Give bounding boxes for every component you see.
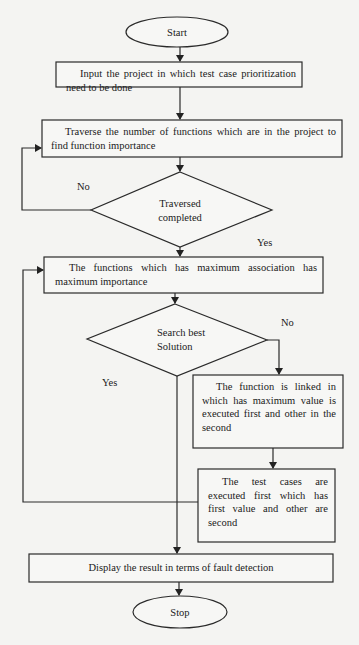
flowchart-lines xyxy=(0,0,359,645)
decision-search-line2: Solution xyxy=(157,340,193,353)
decision-traversed-yes-label: Yes xyxy=(257,236,272,249)
start-label: Start xyxy=(150,26,204,39)
decision-traversed-line2: completed xyxy=(140,211,220,224)
step-link-function-text: The function is linked in which has maxi… xyxy=(202,380,336,434)
stop-label: Stop xyxy=(153,606,207,619)
step-traverse-text: Traverse the number of functions which a… xyxy=(51,125,336,152)
decision-search-line1: Search best xyxy=(157,326,205,339)
step-input-text: Input the project in which test case pri… xyxy=(66,67,296,94)
step-display-text: Display the result in terms of fault det… xyxy=(29,561,333,575)
decision-search-yes-label: Yes xyxy=(102,376,117,389)
decision-traversed-no-label: No xyxy=(77,180,90,193)
step-max-association-text: The functions which has maximum associat… xyxy=(55,261,317,288)
decision-search-no-label: No xyxy=(281,316,294,329)
decision-traversed-line1: Traversed xyxy=(140,197,220,210)
step-execute-tests-text: The test cases are executed first which … xyxy=(208,475,328,529)
